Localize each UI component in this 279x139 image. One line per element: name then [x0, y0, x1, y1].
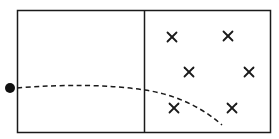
- field-into-page-icon: [224, 32, 233, 41]
- field-into-page-icon: [170, 104, 179, 113]
- field-into-page-icon: [168, 33, 177, 42]
- field-marks: [168, 32, 254, 113]
- diagram-canvas: [0, 0, 279, 139]
- field-free-region: [18, 11, 145, 133]
- particle-trajectory: [17, 85, 222, 125]
- charged-particle: [5, 83, 15, 93]
- field-into-page-icon: [245, 68, 254, 77]
- field-into-page-icon: [228, 104, 237, 113]
- field-into-page-icon: [185, 68, 194, 77]
